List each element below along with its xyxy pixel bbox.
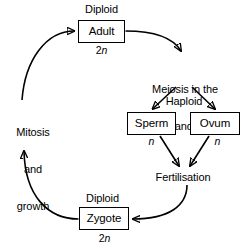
ploidy-adult-italic: n xyxy=(102,44,108,56)
mitosis-label: Mitosis and growth xyxy=(2,102,64,236)
ploidy-zygote-italic: n xyxy=(105,232,111,244)
diploid-label-top: Diploid xyxy=(66,3,137,15)
node-adult-label: Adult xyxy=(89,26,115,38)
meiosis-label-line1: Meiosis in the xyxy=(130,83,240,95)
node-ovum-label: Ovum xyxy=(200,118,230,130)
mitosis-label-line3: growth xyxy=(2,200,64,212)
ploidy-label-sperm: n xyxy=(131,136,172,147)
mitosis-label-line2: and xyxy=(2,163,64,175)
node-sperm[interactable]: Sperm xyxy=(127,112,176,135)
node-zygote[interactable]: Zygote xyxy=(79,207,129,230)
haploid-label: Haploid xyxy=(156,95,212,107)
node-ovum[interactable]: Ovum xyxy=(190,112,240,135)
node-adult[interactable]: Adult xyxy=(78,20,125,43)
ploidy-label-ovum: n xyxy=(197,136,238,147)
edge-fertilisation-to-zygote xyxy=(133,185,187,219)
fertilisation-label: Fertilisation xyxy=(143,171,223,183)
ploidy-label-adult: 2n xyxy=(81,45,122,56)
diploid-label-bottom: Diploid xyxy=(67,192,138,204)
ploidy-sperm-italic: n xyxy=(149,135,155,147)
ploidy-label-zygote: 2n xyxy=(84,233,125,244)
node-sperm-label: Sperm xyxy=(135,118,168,130)
life-cycle-diagram: Diploid Adult 2n Meiosis in the ovary an… xyxy=(0,0,247,250)
mitosis-label-line1: Mitosis xyxy=(2,126,64,138)
edge-adult-to-meiosis xyxy=(126,31,182,51)
node-zygote-label: Zygote xyxy=(87,213,122,225)
ploidy-ovum-italic: n xyxy=(215,135,221,147)
edge-mitosis-to-adult xyxy=(22,31,75,100)
